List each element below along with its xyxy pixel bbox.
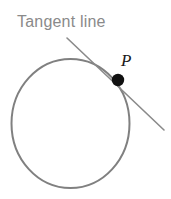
tangent-line-figure: { "figure": { "title_label": "Tangent li… (0, 0, 171, 199)
point-p-dot (112, 74, 124, 86)
point-p-label: P (121, 52, 131, 70)
tangent-line-label: Tangent line (17, 13, 106, 31)
